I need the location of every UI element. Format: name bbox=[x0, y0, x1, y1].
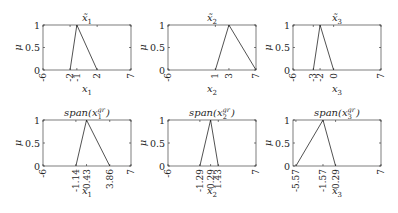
subplot-title: span(xgr2) bbox=[189, 106, 235, 121]
x-tick-label: -6 bbox=[163, 73, 173, 82]
y-tick-label: 0.5 bbox=[25, 138, 40, 149]
y-tick-label: 0.5 bbox=[275, 42, 290, 53]
y-axis-label: μ bbox=[137, 140, 148, 147]
x-axis-label: x2 bbox=[207, 83, 217, 97]
x-tick-label: -6 bbox=[163, 169, 173, 178]
x-tick-label: 7 bbox=[126, 73, 136, 79]
axes-box bbox=[293, 120, 381, 166]
y-axis-label: μ bbox=[262, 140, 273, 147]
x-tick-label: -5.57 bbox=[291, 169, 301, 192]
y-axis-label: μ bbox=[12, 140, 23, 147]
y-tick-label: 0 bbox=[284, 161, 290, 172]
subplot-title: span(xgr3) bbox=[314, 106, 360, 121]
x-tick-label: -1.14 bbox=[71, 169, 81, 192]
x-tick-label: -6 bbox=[38, 169, 48, 178]
y-tick-label: 1 bbox=[284, 115, 290, 126]
x-tick-label: 1 bbox=[210, 73, 220, 79]
subplot-top-2: 00.51-6137μx2x̃2 bbox=[137, 12, 261, 97]
y-tick-label: 1 bbox=[284, 20, 290, 31]
y-tick-label: 1 bbox=[34, 115, 40, 126]
x-axis-label: x3 bbox=[332, 83, 342, 97]
x-tick-label: 2 bbox=[92, 73, 102, 79]
y-tick-label: 1 bbox=[159, 115, 165, 126]
subplot-top-1: 00.51-6-2-127μx1x̃1 bbox=[12, 12, 136, 97]
x-tick-label: 3 bbox=[224, 73, 234, 79]
x-tick-label: -2 bbox=[315, 73, 325, 82]
y-tick-label: 0.5 bbox=[150, 42, 165, 53]
y-tick-label: 1 bbox=[34, 20, 40, 31]
y-tick-label: 1 bbox=[159, 20, 165, 31]
y-axis-label: μ bbox=[12, 44, 23, 51]
y-tick-label: 0.5 bbox=[25, 42, 40, 53]
y-tick-label: 0.5 bbox=[275, 138, 290, 149]
axes-box bbox=[43, 120, 131, 166]
x-tick-label: 7 bbox=[376, 169, 386, 175]
x-tick-label: 1.43 bbox=[213, 169, 223, 189]
x-tick-label: -6 bbox=[288, 73, 298, 82]
y-axis-label: μ bbox=[262, 44, 273, 51]
subplot-bottom-1: 00.51-6-1.140.433.867μx1span(xgr1) bbox=[12, 106, 136, 199]
x-tick-label: 7 bbox=[126, 169, 136, 175]
subplot-title: x̃1 bbox=[82, 12, 92, 26]
axes-box bbox=[293, 25, 381, 70]
y-axis-label: μ bbox=[137, 44, 148, 51]
x-axis-label: x1 bbox=[82, 83, 92, 97]
x-tick-label: -6 bbox=[38, 73, 48, 82]
subplot-title: x̃2 bbox=[207, 12, 217, 26]
x-tick-label: 7 bbox=[251, 73, 261, 79]
subplot-bottom-3: 00.51-5.57-1.570.297μx3span(xgr3) bbox=[262, 106, 386, 199]
figure: 00.51-6-2-127μx1x̃100.51-6137μx2x̃200.51… bbox=[0, 0, 398, 213]
x-tick-label: -1 bbox=[72, 73, 82, 82]
x-tick-label: -1.57 bbox=[318, 169, 328, 192]
y-tick-label: 0.5 bbox=[150, 138, 165, 149]
subplot-top-3: 00.51-6-3-207μx3x̃3 bbox=[262, 12, 386, 97]
x-tick-label: 3.86 bbox=[105, 169, 115, 189]
x-tick-label: 7 bbox=[376, 73, 386, 79]
x-tick-label: -1.29 bbox=[195, 169, 205, 192]
x-tick-label: 7 bbox=[251, 169, 261, 175]
subplot-title: x̃3 bbox=[332, 12, 342, 26]
x-tick-label: 0 bbox=[329, 73, 339, 79]
subplot-bottom-2: 00.51-6-1.290.291.437μx2span(xgr2) bbox=[137, 106, 261, 199]
subplot-title: span(xgr1) bbox=[64, 106, 110, 121]
